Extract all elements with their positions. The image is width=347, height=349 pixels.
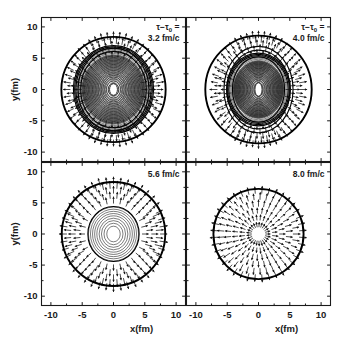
y-tick-label: 10 — [27, 21, 38, 32]
velocity-arrowhead — [161, 88, 163, 91]
y-tick-label: -10 — [24, 146, 38, 157]
velocity-arrowhead — [112, 269, 115, 271]
velocity-arrowhead — [219, 242, 221, 244]
velocity-arrowhead — [232, 235, 234, 237]
x-tick-label: 5 — [142, 309, 148, 320]
velocity-arrowhead — [109, 192, 111, 194]
velocity-arrowhead — [304, 229, 306, 231]
velocity-arrowhead — [158, 85, 160, 87]
velocity-arrowhead — [293, 92, 295, 94]
y-tick-label: 0 — [32, 84, 37, 95]
density-contour — [97, 216, 130, 252]
velocity-arrowhead — [259, 192, 261, 194]
x-tick-label: -10 — [189, 309, 203, 320]
velocity-arrowhead — [259, 44, 261, 46]
velocity-arrowhead — [117, 135, 119, 137]
velocity-arrowhead — [119, 145, 121, 147]
panel-time-prefix: τ−τ0 = — [156, 22, 179, 33]
velocity-arrowhead — [263, 146, 265, 148]
flow-field-figure: 1050-5-10y(fm)τ−τ0 =3.2 fm/cτ−τ0 =4.0 fm… — [0, 0, 347, 349]
velocity-arrowhead — [257, 265, 260, 267]
panel-top-left: 1050-5-10y(fm)τ−τ0 =3.2 fm/c — [9, 18, 186, 162]
velocity-arrowhead — [112, 197, 115, 199]
velocity-arrowhead — [106, 32, 108, 34]
velocity-arrowhead — [112, 177, 115, 179]
velocity-arrowhead — [63, 88, 65, 91]
x-tick-label: -5 — [78, 309, 87, 320]
velocity-arrowhead — [256, 208, 258, 210]
panel-bottom-left: 1050-5-10y(fm)-10-50510x(fm)5.6 fm/c — [9, 163, 186, 334]
velocity-arrowhead — [255, 251, 257, 253]
velocity-arrowhead — [65, 245, 67, 247]
velocity-arrowhead — [146, 233, 148, 236]
velocity-arrowhead — [304, 236, 306, 238]
velocity-arrowhead — [214, 85, 216, 87]
velocity-arrowhead — [259, 251, 261, 253]
panel-bottom-right-content — [210, 186, 307, 282]
velocity-arrowhead — [300, 85, 302, 87]
panel-top-left-content — [61, 31, 165, 147]
velocity-arrowhead — [67, 92, 69, 94]
velocity-arrowhead — [291, 230, 293, 232]
velocity-arrowhead — [79, 225, 81, 227]
velocity-arrowhead — [116, 192, 118, 194]
velocity-arrowhead — [214, 92, 216, 94]
velocity-arrowhead — [146, 225, 148, 227]
velocity-arrowhead — [161, 237, 163, 239]
velocity-arrowhead — [64, 229, 66, 231]
velocity-arrowhead — [290, 236, 292, 238]
velocity-arrowhead — [263, 31, 265, 33]
velocity-arrows — [210, 186, 307, 282]
velocity-arrowhead — [160, 245, 162, 247]
velocity-arrowhead — [112, 144, 115, 146]
x-axis-title: x(fm) — [275, 323, 298, 334]
velocity-arrowhead — [262, 40, 264, 42]
velocity-arrowhead — [258, 244, 260, 246]
velocity-arrowhead — [257, 147, 260, 149]
velocity-arrowhead — [268, 230, 270, 232]
velocity-arrowhead — [290, 88, 292, 91]
velocity-arrowhead — [119, 32, 121, 34]
panel-bottom-right: -10-50510x(fm)8.0 fm/c — [187, 163, 331, 334]
velocity-arrowhead — [68, 233, 70, 236]
velocity-arrows — [59, 177, 168, 292]
velocity-arrowhead — [251, 31, 253, 33]
velocity-arrowhead — [246, 33, 248, 35]
x-tick-label: -5 — [223, 309, 232, 320]
velocity-arrowhead — [112, 290, 115, 292]
velocity-arrowhead — [211, 229, 213, 231]
velocity-arrowhead — [68, 99, 70, 101]
panel-time-label: 8.0 fm/c — [293, 169, 325, 179]
velocity-arrowhead — [251, 145, 253, 147]
velocity-arrowhead — [111, 41, 113, 43]
y-tick-label: -5 — [29, 259, 38, 270]
density-contour — [99, 218, 128, 250]
velocity-arrowhead — [65, 221, 67, 223]
velocity-arrowhead — [283, 233, 285, 236]
velocity-arrowhead — [261, 186, 263, 188]
velocity-arrowhead — [257, 200, 260, 202]
velocity-arrowhead — [257, 31, 260, 33]
velocity-arrowhead — [259, 273, 261, 275]
y-tick-label: 5 — [32, 52, 38, 63]
velocity-arrowhead — [256, 259, 258, 261]
velocity-arrowhead — [293, 84, 295, 86]
velocity-arrowhead — [239, 235, 241, 237]
velocity-arrowhead — [268, 233, 270, 236]
velocity-arrowhead — [298, 233, 300, 236]
x-axis-title: x(fm) — [130, 323, 153, 334]
y-tick-label: -5 — [29, 115, 38, 126]
velocity-arrowhead — [232, 230, 234, 232]
velocity-arrowhead — [268, 42, 270, 44]
velocity-arrowhead — [116, 274, 118, 276]
x-tick-label: 10 — [171, 309, 182, 320]
velocity-arrowhead — [240, 231, 242, 233]
velocity-arrowhead — [100, 142, 102, 144]
velocity-arrowhead — [225, 230, 227, 232]
x-tick-label: 5 — [287, 309, 293, 320]
density-contour — [90, 209, 136, 259]
velocity-arrowhead — [275, 231, 277, 233]
velocity-arrowhead — [156, 77, 158, 79]
x-tick-label: -10 — [44, 309, 58, 320]
velocity-arrowhead — [161, 229, 163, 231]
